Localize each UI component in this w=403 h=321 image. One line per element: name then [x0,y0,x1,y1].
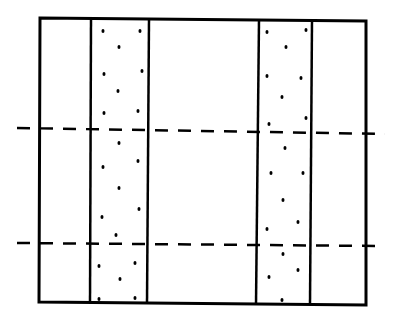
stipple-dot [136,109,139,113]
stipple-dot [267,122,270,126]
background [0,0,403,321]
stipple-dot [299,76,302,80]
stipple-dot [304,28,307,32]
stipple-dot [296,220,299,224]
stipple-dot [281,198,284,202]
stipple-dot [284,45,287,49]
stipple-dot [117,141,120,145]
stipple-dot [102,111,105,115]
stipple-dot [133,261,136,265]
stippled-band-diagram [0,0,403,321]
stipple-dot [117,186,120,190]
stipple-dot [296,268,299,272]
stipple-dot [114,233,117,237]
stipple-dot [97,264,100,268]
stipple-dot [265,30,268,34]
stipple-dot [281,252,284,256]
stipple-dot [118,277,121,281]
stipple-dot [117,45,120,49]
stipple-dot [269,171,272,175]
stipple-dot [283,146,286,150]
stipple-dot [97,297,100,301]
stipple-dot [133,296,136,300]
stipple-dot [100,215,103,219]
stipple-dot [138,29,141,33]
stipple-dot [116,89,119,93]
band-left-edge-1 [90,19,91,303]
stipple-dot [280,95,283,99]
stipple-dot [136,159,139,163]
stipple-dot [102,72,105,76]
stipple-dot [265,227,268,231]
stipple-dot [267,275,270,279]
stipple-dot [101,165,104,169]
stipple-dot [265,74,268,78]
stipple-dot [137,207,140,211]
stipple-dot [280,298,283,302]
stipple-dot [140,69,143,73]
stipple-dot [301,171,304,175]
stipple-dot [101,29,104,33]
stipple-dot [304,116,307,120]
